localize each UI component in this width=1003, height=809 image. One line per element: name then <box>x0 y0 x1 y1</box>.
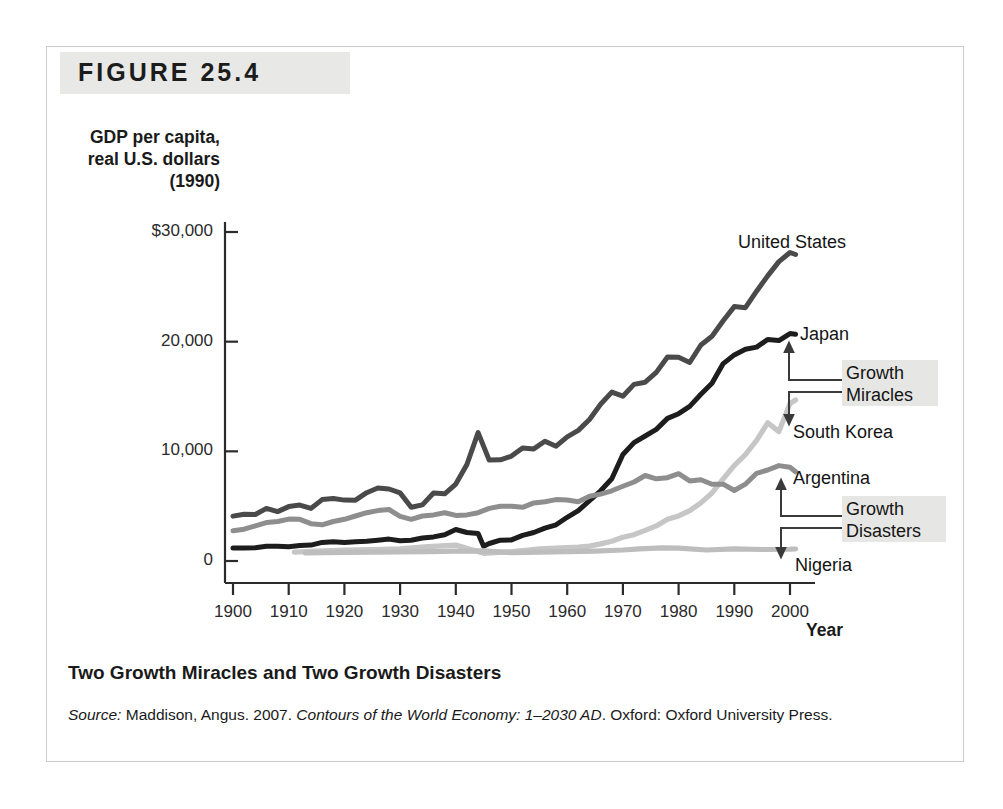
growth-miracles-label-line2: Miracles <box>846 385 913 406</box>
series-label-argentina: Argentina <box>793 468 870 489</box>
figure-caption: Two Growth Miracles and Two Growth Disas… <box>68 662 501 684</box>
x-axis-title: Year <box>806 620 843 641</box>
x-tick-label: 1900 <box>203 602 263 622</box>
y-tick-label: 10,000 <box>103 440 213 460</box>
growth-disasters-label-line2: Disasters <box>846 521 921 542</box>
figure-number-label: FIGURE 25.4 <box>78 58 261 87</box>
x-tick-label: 1920 <box>314 602 374 622</box>
source-title: Contours of the World Economy: 1–2030 AD <box>296 706 601 723</box>
y-tick-label: 0 <box>103 550 213 570</box>
y-tick-label: $30,000 <box>103 221 213 241</box>
x-tick-label: 1990 <box>704 602 764 622</box>
x-tick-label: 1970 <box>593 602 653 622</box>
source-author: Maddison, Angus. 2007. <box>121 706 296 723</box>
growth-disasters-label-line1: Growth <box>846 499 904 520</box>
y-tick-label: 20,000 <box>103 331 213 351</box>
series-label-nigeria: Nigeria <box>795 555 852 576</box>
source-prefix: Source: <box>68 706 121 723</box>
y-axis-title: GDP per capita, real U.S. dollars (1990) <box>55 126 220 192</box>
x-tick-label: 2000 <box>760 602 820 622</box>
source-rest: . Oxford: Oxford University Press. <box>602 706 833 723</box>
x-tick-label: 1960 <box>537 602 597 622</box>
series-label-united-states: United States <box>738 232 846 253</box>
growth-miracles-label-line1: Growth <box>846 363 904 384</box>
x-tick-label: 1940 <box>426 602 486 622</box>
x-tick-label: 1930 <box>370 602 430 622</box>
series-label-south-korea: South Korea <box>793 422 893 443</box>
series-label-japan: Japan <box>800 324 849 345</box>
figure-source: Source: Maddison, Angus. 2007. Contours … <box>68 706 832 724</box>
x-tick-label: 1950 <box>482 602 542 622</box>
x-tick-label: 1910 <box>259 602 319 622</box>
x-tick-label: 1980 <box>649 602 709 622</box>
